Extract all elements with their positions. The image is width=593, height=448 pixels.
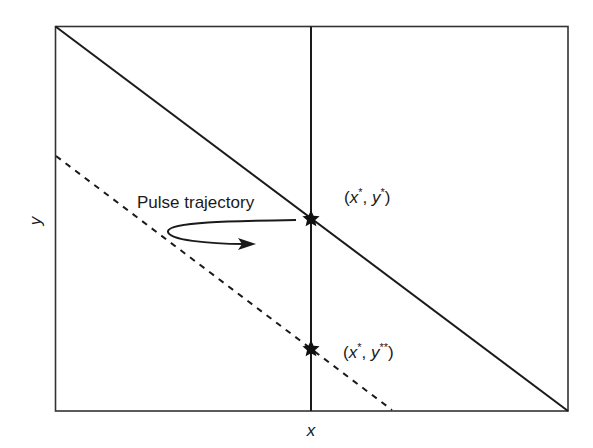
x-axis-label: x: [306, 421, 316, 440]
phase-plane-diagram: Pulse trajectory (x*, y*) (x*, y**) x y: [0, 0, 593, 448]
equilibrium-point-label: (x*, y*): [344, 186, 390, 207]
post-pulse-point-label: (x*, y**): [343, 341, 394, 362]
pulse-trajectory-curve: [168, 220, 296, 244]
y-axis-label: y: [26, 215, 45, 226]
pulse-trajectory-label: Pulse trajectory: [137, 193, 255, 212]
